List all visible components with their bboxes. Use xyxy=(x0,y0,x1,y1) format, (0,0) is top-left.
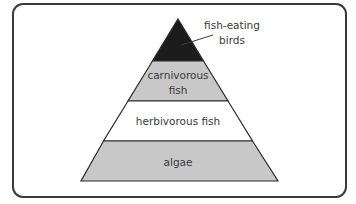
food-pyramid: fish-eating birds carnivorous fish herbi… xyxy=(0,0,356,204)
label-fish-eating-birds-line1: fish-eating xyxy=(204,19,260,31)
label-fish-eating-birds-line2: birds xyxy=(219,34,245,46)
label-carnivorous-fish-line1: carnivorous xyxy=(147,69,208,81)
label-herbivorous-fish: herbivorous fish xyxy=(136,115,220,127)
label-algae: algae xyxy=(164,156,193,168)
label-carnivorous-fish-line2: fish xyxy=(169,84,188,96)
